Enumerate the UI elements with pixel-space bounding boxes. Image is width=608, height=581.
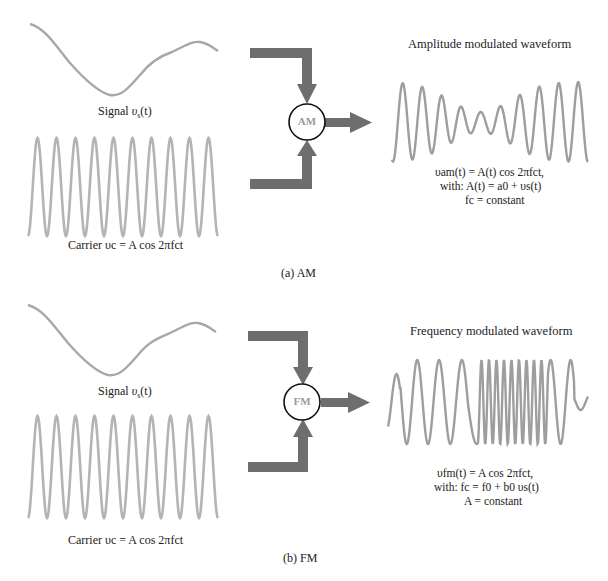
- signal-label-am: Signal υs(t): [98, 104, 152, 120]
- signal-waveform-fm: [28, 305, 216, 375]
- carrier-label-am: Carrier υc = A cos 2πfct: [68, 238, 183, 253]
- fm-output-waveform: [388, 360, 588, 444]
- am-equation-line-2: with: A(t) = a0 + υs(t): [440, 179, 541, 193]
- fm-block-label: FM: [284, 395, 320, 407]
- fm-equation-line-2: with: fc = f0 + b0 υs(t): [434, 480, 539, 494]
- carrier-waveform-fm: [28, 416, 218, 518]
- signal-label-fm: Signal υs(t): [98, 384, 152, 400]
- am-equation-line-3: fc = constant: [465, 193, 525, 207]
- carrier-waveform-am: [28, 138, 218, 236]
- am-output-waveform: [392, 82, 588, 162]
- carrier-label-fm: Carrier υc = A cos 2πfct: [68, 533, 183, 548]
- am-block-label: AM: [289, 115, 325, 127]
- caption-am: (a) AM: [281, 266, 316, 281]
- am-equation-line-1: υam(t) = A(t) cos 2πfct,: [435, 165, 544, 179]
- fm-output-title: Frequency modulated waveform: [410, 324, 572, 339]
- fm-equation-line-1: υfm(t) = A cos 2πfct,: [437, 466, 533, 480]
- caption-fm: (b) FM: [283, 551, 317, 566]
- signal-waveform-am: [30, 24, 218, 95]
- fm-equation-line-3: A = constant: [464, 494, 522, 508]
- am-output-title: Amplitude modulated waveform: [408, 37, 571, 52]
